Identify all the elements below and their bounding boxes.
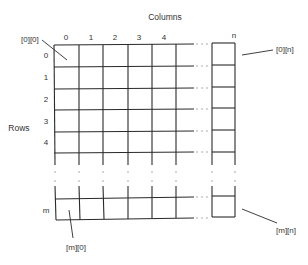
row-labels: 0 1 2 3 4 m — [43, 51, 50, 215]
leader-bottom-right — [242, 209, 277, 223]
last-column-grid — [212, 43, 235, 165]
row-label-m: m — [43, 206, 50, 215]
column-label-0: 0 — [64, 33, 69, 42]
array-grid-svg: Columns Rows 0 1 2 3 4 n 0 1 2 3 4 m — [0, 0, 308, 265]
rows-label: Rows — [8, 123, 29, 133]
main-grid — [54, 44, 194, 165]
row-label-1: 1 — [44, 73, 49, 82]
row-label-3: 3 — [44, 117, 49, 126]
column-labels: 0 1 2 3 4 n — [64, 31, 236, 42]
callout-leaders — [42, 40, 277, 238]
bottom-row-grid — [55, 186, 235, 220]
column-label-1: 1 — [89, 33, 94, 42]
callout-top-left: [0][0] — [21, 35, 39, 44]
horizontal-ellipsis — [196, 43, 207, 218]
callout-top-right: [0][n] — [276, 45, 294, 54]
leader-bottom-left — [69, 210, 73, 238]
column-label-2: 2 — [113, 33, 118, 42]
row-label-4: 4 — [44, 138, 49, 147]
row-label-0: 0 — [44, 51, 49, 60]
row-label-2: 2 — [44, 95, 49, 104]
vertical-ellipsis — [54, 171, 235, 181]
callout-bottom-right: [m][n] — [276, 226, 296, 235]
callout-bottom-left: [m][0] — [66, 243, 86, 252]
column-label-4: 4 — [162, 33, 167, 42]
two-dimensional-array-diagram: Columns Rows 0 1 2 3 4 n 0 1 2 3 4 m — [0, 0, 308, 265]
columns-title: Columns — [148, 12, 182, 22]
leader-top-right — [242, 50, 273, 55]
column-label-3: 3 — [137, 33, 142, 42]
column-label-n: n — [232, 31, 236, 40]
